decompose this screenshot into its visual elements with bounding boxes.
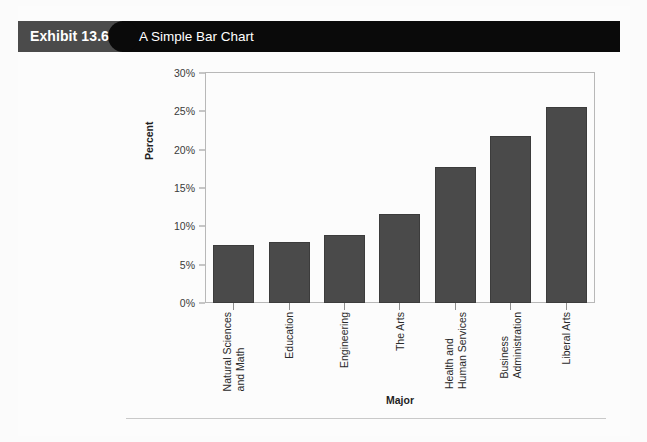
bar: [379, 214, 420, 303]
bar: [435, 167, 476, 303]
y-axis-tick-mark: [199, 188, 205, 189]
x-axis-label-slot: Liberal Arts: [539, 312, 594, 390]
bar-chart: 0%5%10%15%20%25%30% Percent Natural Scie…: [0, 0, 647, 442]
y-axis-tick-label: 25%: [174, 105, 195, 117]
x-axis-label-slot: Engineering: [317, 312, 372, 390]
x-axis-tick-mark: [510, 303, 511, 310]
x-axis-label: Natural Sciences and Math: [221, 312, 246, 391]
x-axis-tick-mark: [566, 303, 567, 310]
x-axis-label: Liberal Arts: [560, 312, 573, 365]
bar: [324, 235, 365, 303]
x-axis-labels: Natural Sciences and MathEducationEngine…: [206, 312, 594, 390]
y-axis-tick-mark: [199, 73, 205, 74]
bar: [546, 107, 587, 303]
x-axis-label: Business Administration: [498, 312, 523, 379]
x-axis-label-slot: Business Administration: [483, 312, 538, 390]
x-axis-label-slot: Health and Human Services: [428, 312, 483, 390]
x-axis-tick-mark: [344, 303, 345, 310]
x-axis-tick-slot: [428, 303, 483, 311]
y-axis-tick-mark: [199, 111, 205, 112]
x-axis-tick-slot: [372, 303, 427, 311]
exhibit-number-label: Exhibit 13.6: [30, 28, 109, 45]
bar-slot: [483, 73, 538, 303]
exhibit-title: A Simple Bar Chart: [139, 28, 254, 45]
bar-slot: [372, 73, 427, 303]
y-axis-tick-label: 5%: [180, 259, 195, 271]
y-axis-tick-mark: [199, 226, 205, 227]
x-axis-tick-slot: [483, 303, 538, 311]
y-axis: 0%5%10%15%20%25%30%: [150, 72, 205, 303]
bars-container: [206, 73, 594, 303]
bar-slot: [262, 73, 317, 303]
bar-slot: [317, 73, 372, 303]
page-canvas: Exhibit 13.6 A Simple Bar Chart 0%5%10%1…: [0, 0, 647, 442]
x-axis-label: Engineering: [338, 312, 351, 368]
y-axis-tick-label: 20%: [174, 144, 195, 156]
x-axis-tick-mark: [289, 303, 290, 310]
y-axis-title: Percent: [143, 121, 155, 160]
bar: [490, 136, 531, 303]
x-axis-label-slot: The Arts: [372, 312, 427, 390]
x-axis-label: The Arts: [394, 312, 407, 351]
bar-slot: [206, 73, 261, 303]
bar-slot: [428, 73, 483, 303]
x-axis-tick-mark: [455, 303, 456, 310]
bar: [269, 242, 310, 303]
x-axis-label: Health and Human Services: [443, 312, 468, 389]
bottom-divider: [126, 418, 606, 419]
x-axis-ticks: [206, 303, 594, 311]
x-axis-title: Major: [206, 394, 594, 406]
y-axis-tick-label: 10%: [174, 220, 195, 232]
y-axis-tick-mark: [199, 149, 205, 150]
y-axis-tick-label: 0%: [180, 297, 195, 309]
x-axis-tick-mark: [233, 303, 234, 310]
x-axis-tick-mark: [399, 303, 400, 310]
x-axis-label: Education: [283, 312, 296, 359]
bar-slot: [539, 73, 594, 303]
y-axis-tick-label: 30%: [174, 67, 195, 79]
x-axis-label-slot: Education: [262, 312, 317, 390]
bar: [213, 245, 254, 303]
x-axis-tick-slot: [262, 303, 317, 311]
x-axis-label-slot: Natural Sciences and Math: [206, 312, 261, 390]
x-axis-tick-slot: [206, 303, 261, 311]
y-axis-tick-mark: [199, 303, 205, 304]
y-axis-tick-mark: [199, 264, 205, 265]
y-axis-tick-label: 15%: [174, 182, 195, 194]
x-axis-tick-slot: [539, 303, 594, 311]
x-axis-tick-slot: [317, 303, 372, 311]
